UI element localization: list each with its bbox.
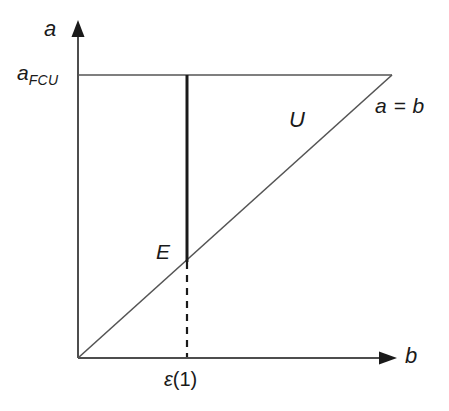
diagram-canvas: a aFCU a = b U E b ε(1)	[0, 0, 449, 411]
x-axis-tick-label-epsilon: ε(1)	[164, 369, 197, 389]
x-axis-label: b	[405, 345, 417, 367]
x-axis	[78, 352, 397, 365]
afcu-subscript: FCU	[29, 72, 59, 88]
diagonal-label-a-equals-b: a = b	[375, 95, 425, 116]
y-axis	[72, 20, 85, 358]
y-axis-tick-label-afcu: aFCU	[17, 62, 58, 83]
x-axis-arrowhead-icon	[379, 352, 397, 365]
epsilon-argument: (1)	[173, 368, 197, 390]
diagram-svg	[0, 0, 449, 411]
point-label-e: E	[156, 241, 170, 262]
y-axis-label: a	[44, 18, 56, 40]
afcu-base-symbol: a	[17, 61, 29, 84]
diagonal-line-a-equals-b	[78, 75, 392, 358]
y-axis-arrowhead-icon	[72, 20, 85, 37]
epsilon-symbol: ε	[164, 368, 173, 390]
region-label-u: U	[289, 109, 305, 131]
